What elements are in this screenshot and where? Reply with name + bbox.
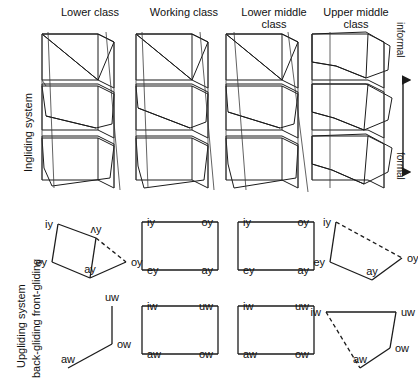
ingliding-prism-working-class <box>130 28 222 194</box>
upgliding-back-working-class: iwuwowaw <box>132 296 228 382</box>
vowel-label: uw <box>295 300 309 312</box>
upgliding-front-lower-class: iyeyayoyʌy <box>44 212 140 298</box>
vowel-label: ey <box>313 256 325 268</box>
upgliding-front-lower-middle-class: iyoyayey <box>228 212 324 298</box>
ingliding-prism-lower-middle-class <box>220 28 312 194</box>
vowel-label: ay <box>84 263 96 275</box>
vowel-label: uw <box>199 300 213 312</box>
vowel-label: ay <box>201 264 213 276</box>
column-header-upper-middle-class: Upper middle class <box>310 6 402 30</box>
vowel-label: ow <box>395 342 409 354</box>
vowel-label: ow <box>295 348 309 360</box>
vowel-label: ow <box>117 338 131 350</box>
vowel-label: uw <box>105 291 119 303</box>
vowel-label: aw <box>61 353 75 365</box>
ingliding-prism-lower-class <box>36 28 128 194</box>
vowel-label: iy <box>45 218 53 230</box>
upgliding-front-working-class: iyoyayey <box>132 212 228 298</box>
column-header-line1: Working class <box>138 6 230 18</box>
vowel-label: ʌy <box>91 223 103 235</box>
vowel-label: iw <box>243 300 253 312</box>
vowel-label: oy <box>407 252 418 264</box>
column-header-line1: Upper middle <box>310 6 402 18</box>
vowel-label: ay <box>297 264 309 276</box>
vowel-label: iy <box>323 216 331 228</box>
vowel-label: aw <box>147 348 161 360</box>
upgliding-back-lower-middle-class: iwuwowaw <box>228 296 324 382</box>
vowel-label: aw <box>243 348 257 360</box>
upgliding-back-upper-middle-class: iwuwowaw <box>318 296 414 382</box>
row-label-upgliding-system: Upgliding system <box>15 284 27 368</box>
column-header-lower-class: Lower class <box>44 6 136 18</box>
upgliding-front-upper-middle-class: iyeyayoy <box>322 210 418 296</box>
vowel-edge <box>330 222 336 262</box>
vowel-label: iw <box>311 306 321 318</box>
vowel-label: ey <box>147 264 159 276</box>
vowel-label: uw <box>401 306 415 318</box>
ingliding-prism-upper-middle-class <box>306 28 406 194</box>
vowel-label: ow <box>199 348 213 360</box>
vowel-edge-dashed <box>336 222 402 258</box>
vowel-label: ey <box>243 264 255 276</box>
vowel-label: iy <box>147 216 155 228</box>
column-header-working-class: Working class <box>138 6 230 18</box>
row-label-gliding-direction: back-gliding front-gliding <box>30 259 42 378</box>
vowel-label: ey <box>35 256 47 268</box>
column-header-line1: Lower middle <box>228 6 320 18</box>
vowel-label: iw <box>147 300 157 312</box>
row-label-ingliding-system: Ingliding system <box>22 93 34 172</box>
column-header-lower-middle-class: Lower middle class <box>228 6 320 30</box>
vowel-label: aw <box>353 353 367 365</box>
vowel-label: oy <box>201 216 213 228</box>
vowel-edge-dashed <box>96 238 126 262</box>
vowel-label: ay <box>366 265 378 277</box>
column-header-line1: Lower class <box>44 6 136 18</box>
vowel-label: oy <box>297 216 309 228</box>
vowel-label: iy <box>243 216 251 228</box>
